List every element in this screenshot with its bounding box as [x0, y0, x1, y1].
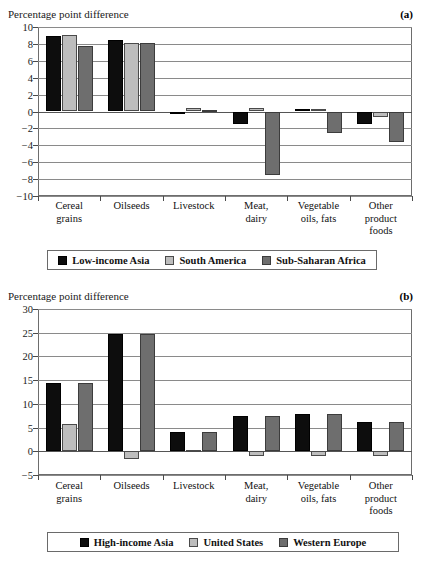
y-tick-mark: [33, 162, 38, 163]
bar: [62, 35, 77, 111]
bar: [389, 422, 404, 451]
bar: [327, 112, 342, 133]
black-swatch: [58, 256, 67, 265]
legend-entry: Western Europe: [279, 537, 366, 548]
gridline: [38, 309, 412, 310]
plot-area-a: 1086420−2−4−6−8−10: [38, 27, 412, 196]
legend-entry: Low-income Asia: [58, 255, 149, 266]
x-axis-category-label: Meat,dairy: [225, 480, 287, 505]
chart-panel-b: Percentage point difference (b) 30252015…: [0, 286, 423, 568]
y-tick-label: 20: [23, 351, 34, 362]
bar: [108, 40, 123, 112]
y-tick-mark: [33, 428, 38, 429]
bar: [265, 112, 280, 175]
bar: [140, 43, 155, 111]
y-tick-mark: [33, 356, 38, 357]
bar: [327, 414, 342, 451]
bar: [249, 108, 264, 111]
y-axis-line-b: [38, 309, 39, 475]
x-axis-category-label: Cerealgrains: [38, 480, 100, 505]
y-tick-label: 15: [23, 375, 34, 386]
legend-label: Sub-Saharan Africa: [276, 255, 366, 266]
gridline: [38, 61, 412, 62]
legend-b: High-income AsiaUnited StatesWestern Eur…: [47, 532, 399, 552]
bar: [170, 112, 185, 114]
legend-entry: South America: [165, 255, 246, 266]
gridline: [38, 145, 412, 146]
bar: [124, 451, 139, 459]
gridline: [38, 333, 412, 334]
bar: [202, 110, 217, 112]
x-axis-category-label: Oilseeds: [100, 480, 162, 493]
bar: [186, 108, 201, 111]
legend-a: Low-income AsiaSouth AmericaSub-Saharan …: [47, 250, 377, 270]
y-tick-label: 30: [23, 304, 34, 315]
gridline: [38, 428, 412, 429]
light-gray-swatch: [165, 256, 174, 265]
legend-label: High-income Asia: [94, 537, 174, 548]
gridline: [38, 27, 412, 28]
x-axis-category-label: Otherproductfoods: [350, 200, 412, 238]
plot-area-b: 302520151050−5: [38, 309, 412, 475]
y-tick-mark: [33, 309, 38, 310]
x-axis-category-label: Oilseeds: [100, 200, 162, 213]
y-tick-label: 10: [23, 398, 34, 409]
dark-gray-swatch: [279, 538, 288, 547]
chart-panel-a: Percentage point difference (a) 1086420−…: [0, 0, 423, 286]
x-axis-separator: [412, 475, 413, 480]
y-tick-label: −8: [22, 174, 33, 185]
bar: [202, 432, 217, 451]
y-tick-mark: [33, 61, 38, 62]
legend-label: United States: [203, 537, 263, 548]
bar: [78, 46, 93, 111]
legend-label: Western Europe: [293, 537, 366, 548]
y-tick-mark: [33, 380, 38, 381]
bar: [295, 109, 310, 112]
gridline: [38, 44, 412, 45]
bar: [373, 451, 388, 456]
legend-entry: Sub-Saharan Africa: [262, 255, 366, 266]
black-swatch: [80, 538, 89, 547]
x-axis-category-label: Livestock: [163, 480, 225, 493]
bar: [170, 432, 185, 451]
gridline: [38, 128, 412, 129]
y-tick-mark: [33, 179, 38, 180]
bar: [140, 334, 155, 451]
light-gray-swatch: [189, 538, 198, 547]
legend-entry: High-income Asia: [80, 537, 174, 548]
y-tick-mark: [33, 112, 38, 113]
y-tick-label: −2: [22, 123, 33, 134]
legend-label: Low-income Asia: [72, 255, 149, 266]
zero-line: [38, 112, 412, 113]
bar: [373, 112, 388, 117]
gridline: [38, 162, 412, 163]
gridline: [38, 78, 412, 79]
x-axis-category-label: Livestock: [163, 200, 225, 213]
x-axis-separator: [412, 196, 413, 201]
dark-gray-swatch: [262, 256, 271, 265]
legend-label: South America: [179, 255, 246, 266]
y-tick-label: 10: [23, 22, 34, 33]
gridline: [38, 179, 412, 180]
y-tick-label: −4: [22, 140, 33, 151]
bar: [357, 422, 372, 451]
y-tick-mark: [33, 95, 38, 96]
bar: [108, 334, 123, 451]
zero-line: [38, 451, 412, 452]
y-tick-label: −10: [17, 191, 33, 202]
y-tick-label: 25: [23, 327, 34, 338]
y-tick-label: −5: [22, 470, 33, 481]
y-tick-label: −6: [22, 157, 33, 168]
y-tick-mark: [33, 333, 38, 334]
bar: [46, 383, 61, 451]
bar: [311, 451, 326, 456]
bar: [295, 414, 310, 451]
gridline: [38, 380, 412, 381]
bar: [186, 450, 201, 452]
bar: [233, 416, 248, 451]
bar: [389, 112, 404, 142]
panel-label-b: (b): [400, 290, 413, 302]
y-axis-title-b: Percentage point difference: [8, 290, 129, 302]
bar: [357, 112, 372, 125]
y-tick-mark: [33, 44, 38, 45]
